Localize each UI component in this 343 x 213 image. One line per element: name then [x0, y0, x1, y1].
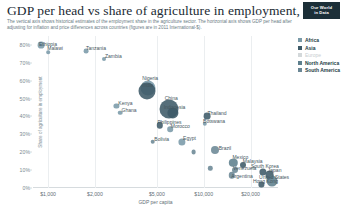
- x-axis-tick-label: $10,000: [194, 191, 213, 197]
- y-axis-tick-label: 10%: [20, 167, 30, 173]
- chart-legend: AfricaAsiaEuropeNorth AmericaSouth Ameri…: [298, 37, 340, 75]
- y-axis-tick-label: 50%: [20, 96, 30, 102]
- legend-swatch-icon: [298, 53, 302, 57]
- y-axis-tick-label: 70%: [20, 60, 30, 66]
- data-point-label: Brazil: [219, 145, 232, 151]
- legend-item-label: Africa: [305, 37, 319, 43]
- data-point-label: Malaysia: [243, 158, 263, 164]
- legend-item-label: North America: [305, 60, 339, 66]
- x-axis-tick-label: $2,000: [87, 191, 103, 197]
- owid-logo-line2: in Data: [303, 10, 340, 15]
- legend-swatch-icon: [298, 61, 302, 65]
- x-gridline: [251, 36, 252, 188]
- x-axis-tick-label: $1,000: [40, 191, 56, 197]
- x-axis-label: GDP per capita: [138, 199, 172, 205]
- data-point-india[interactable]: [138, 83, 155, 100]
- y-axis-tick-label: 60%: [20, 78, 30, 84]
- x-gridline: [95, 36, 96, 188]
- data-point-label: Zambia: [105, 53, 122, 59]
- data-point-kenya[interactable]: [114, 103, 119, 108]
- legend-item-north-america[interactable]: North America: [298, 60, 340, 66]
- x-gridline: [48, 36, 49, 188]
- legend-item-label: South America: [305, 67, 340, 73]
- data-point-tanzania[interactable]: [84, 49, 89, 54]
- data-point-mexico[interactable]: [229, 159, 237, 167]
- y-axis-tick-label: 0%: [23, 185, 31, 191]
- data-point-ethiopia[interactable]: [38, 42, 45, 49]
- data-point-label: Ghana: [122, 107, 137, 113]
- data-point-label: South Korea: [251, 163, 279, 169]
- data-point-ghana[interactable]: [118, 111, 123, 116]
- plot-area: Share of agriculture in employment GDP p…: [33, 36, 278, 188]
- page-title: GDP per head vs share of agriculture in …: [7, 3, 331, 19]
- y-axis-tick-mark: [30, 44, 32, 45]
- y-axis-tick-label: 80%: [20, 42, 30, 48]
- x-axis-tick-label: $20,000: [241, 191, 260, 197]
- legend-item-europe[interactable]: Europe: [298, 52, 340, 58]
- legend-item-south-america[interactable]: South America: [298, 67, 340, 73]
- legend-item-label: Asia: [305, 45, 316, 51]
- data-point-zambia[interactable]: [102, 57, 106, 61]
- y-axis-tick-label: 40%: [20, 113, 30, 119]
- legend-swatch-icon: [298, 46, 302, 50]
- chart-subtitle: The vertical axis shows historical estim…: [7, 19, 297, 31]
- legend-item-africa[interactable]: Africa: [298, 37, 340, 43]
- y-axis-label: Share of agriculture in employment: [38, 76, 43, 147]
- legend-item-label: Europe: [305, 52, 321, 58]
- y-axis-tick-mark: [30, 116, 32, 117]
- data-point-label: Kenya: [118, 100, 132, 106]
- y-axis-tick-mark: [30, 134, 32, 135]
- data-point[interactable]: [208, 166, 212, 170]
- x-gridline: [157, 36, 158, 188]
- y-axis-tick-label: 20%: [20, 149, 30, 155]
- data-point[interactable]: [191, 150, 196, 155]
- data-point-egypt[interactable]: [178, 138, 185, 145]
- x-axis-tick-label: $5,000: [149, 191, 165, 197]
- data-point-label: Egypt: [183, 135, 196, 141]
- data-point-malawi[interactable]: [46, 50, 50, 54]
- data-point-label: Morocco: [171, 123, 190, 129]
- y-axis-tick-label: 30%: [20, 131, 30, 137]
- legend-swatch-icon: [298, 38, 302, 42]
- data-point-morocco[interactable]: [168, 126, 174, 132]
- data-point-bolivia[interactable]: [150, 139, 155, 144]
- x-axis-line: [33, 187, 278, 188]
- y-axis-tick-mark: [30, 80, 32, 81]
- data-point-botswana[interactable]: [203, 121, 207, 125]
- x-gridline: [204, 36, 205, 188]
- data-point-united-states[interactable]: [267, 175, 278, 186]
- data-point-malaysia[interactable]: [240, 162, 246, 168]
- data-point-philippines[interactable]: [156, 122, 162, 128]
- y-axis-tick-mark: [30, 170, 32, 171]
- legend-swatch-icon: [298, 68, 302, 72]
- y-axis-tick-mark: [30, 98, 32, 99]
- chart-container: GDP per head vs share of agriculture in …: [0, 0, 343, 213]
- legend-item-asia[interactable]: Asia: [298, 45, 340, 51]
- data-point-thailand[interactable]: [204, 113, 211, 120]
- data-point-indonesia[interactable]: [167, 107, 178, 118]
- y-axis-tick-mark: [30, 152, 32, 153]
- y-axis-tick-mark: [30, 188, 32, 189]
- y-axis-tick-mark: [30, 62, 32, 63]
- owid-logo[interactable]: Our World in Data: [303, 2, 340, 19]
- data-point-argentina[interactable]: [229, 172, 235, 178]
- data-point-brazil[interactable]: [211, 146, 219, 154]
